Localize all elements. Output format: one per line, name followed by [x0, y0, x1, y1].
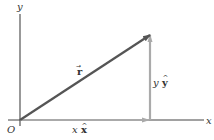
- x-component-var: x: [72, 124, 78, 135]
- r-vector-arrow: [20, 35, 150, 120]
- origin-label: O: [7, 124, 15, 135]
- y-axis-label: y: [16, 1, 23, 12]
- y-component-var: y: [152, 77, 159, 88]
- x-axis-label: x: [206, 115, 212, 126]
- r-vector-arrow-accent: →: [76, 62, 81, 69]
- vector-diagram: y x O r → x x ^ y y ^: [0, 0, 214, 140]
- x-hat-accent: ^: [82, 122, 88, 130]
- y-hat-accent: ^: [163, 74, 169, 82]
